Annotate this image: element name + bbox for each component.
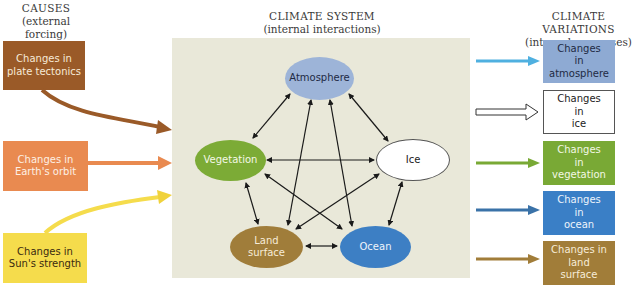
node-land-surface: Landsurface [230,226,303,268]
response-line: ocean [557,219,601,232]
response-line: atmosphere [549,68,609,81]
response-line: Changes [549,43,609,56]
response-line: Changes [557,93,601,106]
response-line: Changes in [551,244,607,257]
node-label: Atmosphere [289,72,350,85]
node-label: surface [248,247,285,260]
cause-arrows [42,90,172,233]
response-line: land [551,257,607,270]
node-ice: Ice [376,139,450,181]
response-ocean: Changesinocean [543,191,615,235]
node-label: Ice [406,154,421,167]
response-arrows [476,56,540,264]
response-line: Changes [557,194,601,207]
interaction-arrows [246,94,402,246]
node-vegetation: Vegetation [195,140,266,181]
response-line: in [549,55,609,68]
response-ice: Changesinice [543,90,615,134]
response-atmosphere: Changesinatmosphere [543,40,615,83]
node-atmosphere: Atmosphere [285,57,354,100]
response-line: surface [551,269,607,282]
node-label: Vegetation [204,154,258,167]
response-line: in [557,106,601,119]
node-label: Land [248,235,285,248]
response-line: Changes [552,144,606,157]
node-label: Ocean [360,241,392,254]
response-line: in [557,207,601,220]
response-line: in [552,157,606,170]
node-ocean: Ocean [340,226,411,268]
response-line: vegetation [552,169,606,182]
response-land-surface: Changes inlandsurface [543,241,615,285]
response-vegetation: Changesinvegetation [543,141,615,185]
response-line: ice [557,118,601,131]
